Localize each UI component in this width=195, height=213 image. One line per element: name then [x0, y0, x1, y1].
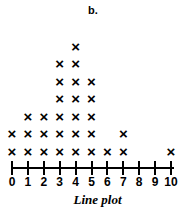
dot-column-5: ×××××	[84, 73, 100, 161]
plot-area: ××××××××××××××××××××××××××××××	[0, 0, 195, 160]
dot-column-2: ×××	[36, 108, 52, 161]
axis-label-10: 10	[160, 175, 182, 189]
x-mark: ×	[52, 73, 68, 91]
x-mark: ×	[20, 143, 36, 161]
dot-column-10: ×	[163, 143, 179, 161]
x-mark: ×	[52, 55, 68, 73]
number-line-axis	[0, 160, 195, 176]
axis-tick-1	[27, 161, 29, 175]
x-mark: ×	[52, 143, 68, 161]
x-mark: ×	[99, 143, 115, 161]
axis-tick-6	[106, 161, 108, 175]
x-mark: ×	[36, 143, 52, 161]
axis-tick-labels: 012345678910	[0, 175, 195, 191]
axis-line	[11, 167, 174, 169]
axis-tick-2	[43, 161, 45, 175]
line-plot-figure: b. ×××××××××××××××××××××××××××××× 012345…	[0, 0, 195, 213]
x-mark: ×	[4, 125, 20, 143]
dot-column-1: ×××	[20, 108, 36, 161]
axis-tick-3	[59, 161, 61, 175]
dot-column-0: ××	[4, 125, 20, 160]
dot-column-7: ××	[115, 125, 131, 160]
x-mark: ×	[84, 90, 100, 108]
x-mark: ×	[115, 125, 131, 143]
x-mark: ×	[68, 55, 84, 73]
axis-tick-10	[170, 161, 172, 175]
axis-tick-8	[138, 161, 140, 175]
x-mark: ×	[68, 90, 84, 108]
dot-column-4: ×××××××	[68, 38, 84, 161]
x-mark: ×	[36, 125, 52, 143]
x-mark: ×	[52, 108, 68, 126]
x-mark: ×	[115, 143, 131, 161]
x-mark: ×	[36, 108, 52, 126]
x-mark: ×	[20, 125, 36, 143]
x-mark: ×	[20, 108, 36, 126]
plot-caption: Line plot	[0, 192, 195, 207]
x-mark: ×	[84, 108, 100, 126]
axis-tick-9	[154, 161, 156, 175]
x-mark: ×	[68, 108, 84, 126]
x-mark: ×	[68, 143, 84, 161]
x-mark: ×	[52, 90, 68, 108]
axis-tick-7	[122, 161, 124, 175]
x-mark: ×	[84, 73, 100, 91]
x-mark: ×	[68, 38, 84, 56]
dot-column-3: ××××××	[52, 55, 68, 160]
x-mark: ×	[52, 125, 68, 143]
x-mark: ×	[84, 125, 100, 143]
axis-tick-4	[75, 161, 77, 175]
x-mark: ×	[68, 73, 84, 91]
axis-tick-5	[91, 161, 93, 175]
x-mark: ×	[84, 143, 100, 161]
axis-tick-0	[11, 161, 13, 175]
x-mark: ×	[4, 143, 20, 161]
x-mark: ×	[68, 125, 84, 143]
dot-column-6: ×	[99, 143, 115, 161]
x-mark: ×	[163, 143, 179, 161]
